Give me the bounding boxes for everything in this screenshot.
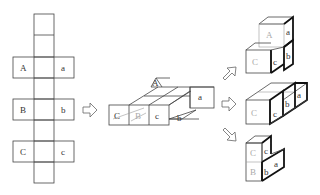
result-cube-1: A a C c b (246, 17, 293, 73)
fold-label-c: c (155, 111, 159, 121)
down-right-arrow-icon (223, 128, 236, 141)
r3-label-a: a (274, 159, 278, 169)
net-label-B: B (20, 105, 26, 115)
net-label-c: c (61, 147, 65, 157)
r2-label-b: b (285, 99, 290, 109)
r1-label-C: C (252, 57, 258, 67)
right-arrow-icon (83, 103, 97, 117)
folding-illustration: A a C B c b (109, 78, 214, 125)
fold-label-B: B (135, 111, 141, 121)
r2-label-a: a (297, 90, 301, 100)
cube-net: A a B b C c (13, 14, 74, 183)
right-arrow-icon (222, 97, 236, 111)
up-right-arrow-icon (223, 67, 236, 80)
net-label-A: A (20, 63, 27, 73)
r2-label-C: C (251, 108, 257, 118)
cube-net-folding-diagram: A a B b C c A a C B c b (0, 0, 320, 195)
net-label-a: a (61, 63, 65, 73)
r3-label-b: b (264, 167, 269, 177)
r1-label-a: a (286, 27, 290, 37)
fold-label-A: A (152, 78, 159, 88)
r2-label-c: c (273, 109, 277, 119)
net-label-b: b (61, 105, 66, 115)
r3-label-B: B (250, 167, 256, 177)
result-cube-2: C c b a (246, 83, 307, 124)
r1-label-c: c (273, 57, 277, 67)
r3-label-C: C (250, 148, 256, 158)
net-label-C: C (20, 147, 26, 157)
r1-label-A: A (266, 30, 273, 40)
net-column (34, 14, 54, 183)
r3-label-c: c (264, 146, 268, 156)
fold-label-C: C (114, 111, 120, 121)
result-cube-3: C c B b a (246, 136, 284, 181)
r1-label-b: b (286, 51, 291, 61)
fold-label-a: a (198, 92, 202, 102)
fold-label-b: b (177, 113, 182, 123)
